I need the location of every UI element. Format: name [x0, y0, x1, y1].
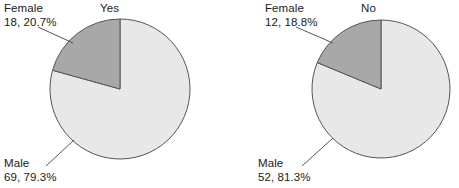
pie-label-male-yes-value: 69, 79.3%	[4, 171, 57, 185]
pie-label-male-no: Male 52, 81.3%	[258, 157, 311, 184]
pie-label-male-no-value: 52, 81.3%	[258, 171, 311, 185]
pie-title-yes: Yes	[100, 2, 119, 16]
pie-label-female-no-value: 12, 18.8%	[265, 16, 318, 30]
pie-chart-figure: Yes Female 18, 20.7% Male 69, 79.3% No F…	[0, 0, 459, 188]
pie-label-female-yes: Female 18, 20.7%	[4, 2, 57, 29]
leader-line-female-yes	[38, 27, 73, 43]
pie-label-male-yes-name: Male	[4, 157, 57, 171]
pie-title-no: No	[361, 2, 376, 16]
pie-label-female-no-name: Female	[265, 2, 318, 16]
leader-line-female-no	[296, 27, 333, 43]
pie-chart-no: No Female 12, 18.8% Male 52, 81.3%	[230, 0, 459, 188]
pie-label-male-no-name: Male	[258, 157, 311, 171]
pie-label-female-no: Female 12, 18.8%	[265, 2, 318, 29]
pie-chart-yes: Yes Female 18, 20.7% Male 69, 79.3%	[0, 0, 229, 188]
pie-label-female-yes-name: Female	[4, 2, 57, 16]
pie-label-male-yes: Male 69, 79.3%	[4, 157, 57, 184]
pie-label-female-yes-value: 18, 20.7%	[4, 16, 57, 30]
